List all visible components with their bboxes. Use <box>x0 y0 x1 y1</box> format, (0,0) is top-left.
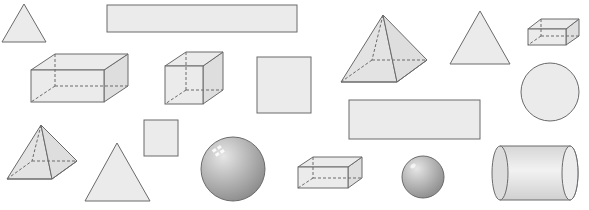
triangle-small <box>2 4 46 42</box>
triangle-large <box>85 143 150 201</box>
long-rectangle <box>107 5 297 32</box>
rectangular-prism-flat <box>298 157 362 188</box>
shapes-canvas: Assorted 2D and 3D geometric shapes <box>0 0 589 210</box>
circle <box>521 63 579 121</box>
cube <box>165 52 223 104</box>
cylinder <box>492 146 578 200</box>
square-pyramid-small <box>7 125 77 179</box>
sphere-small <box>402 156 444 198</box>
rectangular-prism-small <box>528 19 579 45</box>
triangle-medium <box>450 11 510 64</box>
square-pyramid-large <box>341 15 427 82</box>
square-large <box>257 57 311 113</box>
rectangular-prism-large <box>31 54 128 102</box>
rectangle <box>349 100 480 139</box>
square-small <box>144 120 178 156</box>
sphere-large <box>201 137 265 201</box>
